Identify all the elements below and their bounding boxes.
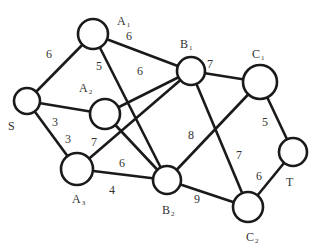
- edge-weight-label: 5: [262, 115, 268, 129]
- node-s: [14, 88, 40, 114]
- node-label-a2: A2: [79, 81, 93, 96]
- node-label-b2: B2: [162, 203, 175, 218]
- node-b2: [153, 166, 181, 194]
- edge-weight-label: 7: [207, 57, 213, 71]
- edge-weight-label: 5: [96, 59, 102, 73]
- node-label-a3: A3: [72, 192, 86, 207]
- node-label-s: S: [8, 119, 15, 133]
- graph-diagram: 633656764778956SA1A2A3B1B2C1C2T: [0, 0, 323, 252]
- node-label-a1: A1: [117, 14, 131, 29]
- node-a3: [61, 153, 93, 185]
- edge-weight-label: 7: [91, 135, 97, 149]
- edge-weight-label: 3: [65, 132, 71, 146]
- edge-weight-label: 6: [126, 29, 132, 43]
- node-t: [279, 138, 307, 166]
- edge-weight-label: 8: [188, 128, 194, 142]
- edge-weight-label: 3: [52, 115, 58, 129]
- edge-b2-c1: [167, 82, 260, 180]
- node-label-t: T: [286, 175, 294, 189]
- edge-b1-c2: [191, 71, 248, 207]
- node-c1: [243, 65, 277, 99]
- node-b1: [177, 57, 205, 85]
- node-label-c1: C1: [252, 47, 265, 62]
- node-c2: [233, 192, 263, 222]
- node-label-c2: C2: [246, 230, 259, 245]
- edge-weight-label: 6: [46, 47, 52, 61]
- node-a2: [90, 99, 120, 129]
- edge-weight-label: 6: [119, 156, 125, 170]
- edge-weight-label: 7: [236, 148, 242, 162]
- node-label-b1: B1: [180, 37, 193, 52]
- edge-weight-label: 9: [194, 192, 200, 206]
- edge-weight-label: 4: [109, 183, 115, 197]
- edge-weight-label: 6: [256, 169, 262, 183]
- node-a1: [78, 19, 108, 49]
- edge-weight-label: 6: [137, 64, 143, 78]
